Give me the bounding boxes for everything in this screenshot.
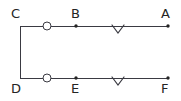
vertex-label-e: E: [71, 82, 79, 95]
point-dot-f: [166, 76, 169, 79]
geometry-diagram: C B A D E F: [0, 0, 181, 101]
vertex-label-c: C: [11, 7, 20, 20]
vertex-label-d: D: [11, 82, 21, 95]
vertex-label-f: F: [161, 82, 168, 95]
vertex-label-b: B: [71, 7, 80, 20]
diagram-canvas: [0, 0, 181, 101]
point-dot-a: [166, 24, 169, 27]
top-open-circle-marker: [43, 22, 51, 30]
point-dot-e: [74, 76, 77, 79]
point-dot-b: [74, 24, 77, 27]
bottom-open-circle-marker: [43, 74, 51, 82]
vertex-label-a: A: [161, 7, 170, 20]
